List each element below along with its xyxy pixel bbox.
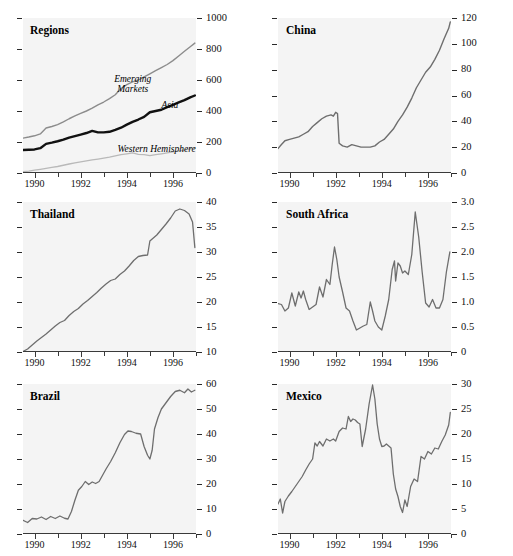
y-tick-label: 80 [461,64,472,75]
y-tick-right [197,173,202,174]
x-tick [58,534,59,538]
y-tick-right [197,227,202,228]
x-tick-label: 1992 [326,179,346,189]
x-tick-label: 1994 [372,540,392,550]
y-tick-label: 20 [206,297,217,308]
y-tick-label: 0.5 [461,322,474,333]
y-tick-left [272,96,277,97]
plot-area-brazil [23,384,196,534]
y-tick-left [272,202,277,203]
plot-background [23,384,196,534]
x-tick [359,534,360,538]
y-tick-label: 25 [206,272,217,283]
y-tick-right [197,111,202,112]
y-tick-label: 30 [206,454,217,465]
y-tick-right [197,509,202,510]
y-tick-right [452,327,457,328]
x-tick-label: 1990 [25,540,45,550]
y-tick-left [272,18,277,19]
panel-title-thailand: Thailand [30,208,75,220]
y-tick-left [17,509,22,510]
y-tick-label: 50 [206,404,217,415]
plot-area-mexico [278,384,451,534]
y-tick-label: 400 [206,106,222,117]
x-axis-line [278,172,451,173]
x-tick-label: 1994 [117,358,137,368]
y-tick-left [17,327,22,328]
y-tick-label: 10 [206,347,217,358]
panel-title-regions: Regions [30,24,69,36]
y-tick-left [17,409,22,410]
x-tick [104,352,105,356]
chart-panel-south-africa: 00.51.01.52.02.53.01990199219941996South… [256,190,513,370]
y-tick-left [17,302,22,303]
x-axis-line [278,533,451,534]
y-tick-label: 100 [461,38,477,49]
y-tick-label: 20 [206,479,217,490]
x-tick-label: 1992 [71,179,91,189]
series-annotation: Asia [161,100,178,110]
y-tick-right [452,252,457,253]
y-tick-right [452,96,457,97]
y-tick-right [197,252,202,253]
chart-panel-china: 0204060801001201990199219941996China [256,0,513,190]
y-tick-right [197,142,202,143]
x-tick [313,173,314,177]
y-tick-right [197,302,202,303]
series-canvas [23,384,196,534]
plot-area-thailand [23,202,196,352]
y-tick-left [272,384,277,385]
x-axis-line [23,351,196,352]
y-tick-right [452,409,457,410]
y-tick-left [17,252,22,253]
y-tick-left [17,459,22,460]
x-tick [58,352,59,356]
y-tick-label: 15 [206,322,217,333]
chart-panel-regions: 020040060080010001990199219941996Regions… [0,0,256,190]
series-line-mexico [278,385,450,513]
series-line-brazil [23,389,195,523]
y-tick-left [272,352,277,353]
y-tick-label: 3.0 [461,197,474,208]
panel-title-mexico: Mexico [286,390,322,402]
chart-panel-thailand: 101520253035401990199219941996Thailand [0,190,256,370]
y-tick-label: 0 [461,347,466,358]
x-tick-label: 1992 [326,540,346,550]
plot-background [278,18,451,173]
y-tick-label: 60 [461,90,472,101]
y-tick-label: 600 [206,75,222,86]
y-tick-right [197,459,202,460]
plot-background [278,384,451,534]
y-tick-right [452,484,457,485]
y-tick-label: 30 [206,247,217,258]
y-tick-label: 10 [206,504,217,515]
y-tick-right [452,277,457,278]
y-tick-right [452,352,457,353]
y-tick-right [197,434,202,435]
x-tick-label: 1990 [280,179,300,189]
y-tick-right [197,277,202,278]
panel-title-south-africa: South Africa [286,208,348,220]
y-tick-label: 1.5 [461,272,474,283]
x-tick [359,173,360,177]
x-tick-label: 1996 [418,358,438,368]
y-tick-label: 30 [461,379,472,390]
y-tick-right [197,18,202,19]
y-tick-right [197,409,202,410]
y-tick-left [17,484,22,485]
y-tick-label: 120 [461,13,477,24]
x-tick-label: 1990 [25,358,45,368]
y-tick-label: 0 [461,529,466,540]
y-tick-left [17,80,22,81]
x-tick [150,173,151,177]
x-tick [313,352,314,356]
y-tick-left [272,70,277,71]
x-tick-label: 1996 [163,540,183,550]
y-tick-left [272,227,277,228]
y-tick-right [197,80,202,81]
y-tick-right [197,534,202,535]
y-tick-right [197,202,202,203]
y-tick-left [272,534,277,535]
y-tick-label: 800 [206,44,222,55]
series-canvas [278,18,451,173]
